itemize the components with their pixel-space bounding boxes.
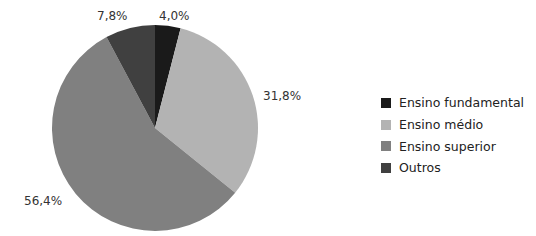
swatch-superior xyxy=(381,141,391,151)
legend-item-medio: Ensino médio xyxy=(381,114,524,136)
legend-item-outros: Outros xyxy=(381,157,524,179)
label-superior: 56,4% xyxy=(24,194,62,208)
legend: Ensino fundamental Ensino médio Ensino s… xyxy=(381,92,524,179)
legend-label: Outros xyxy=(399,160,441,175)
label-fundamental: 4,0% xyxy=(159,9,190,23)
swatch-medio xyxy=(381,120,391,130)
swatch-outros xyxy=(381,163,391,173)
label-outros: 7,8% xyxy=(97,9,128,23)
label-medio: 31,8% xyxy=(263,89,301,103)
swatch-fundamental xyxy=(381,98,391,108)
legend-label: Ensino superior xyxy=(399,139,496,154)
legend-item-superior: Ensino superior xyxy=(381,135,524,157)
legend-item-fundamental: Ensino fundamental xyxy=(381,92,524,114)
legend-label: Ensino médio xyxy=(399,117,483,132)
legend-label: Ensino fundamental xyxy=(399,95,524,110)
